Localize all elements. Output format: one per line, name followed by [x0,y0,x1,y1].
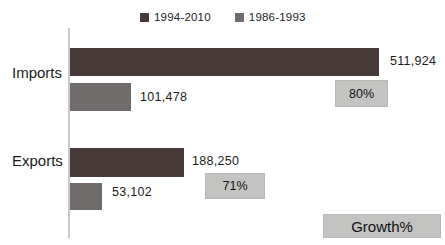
value-label-exports-1994-2010: 188,250 [192,154,239,168]
bar-imports-1986-1993 [70,83,131,111]
category-label-imports: Imports [12,64,62,81]
legend: 1994-2010 1986-1993 [140,11,306,23]
bar-exports-1994-2010 [70,148,184,177]
growth-box-exports: 71% [205,173,265,199]
growth-legend-box: Growth% [323,214,441,238]
legend-item-1994-2010: 1994-2010 [140,11,211,23]
legend-label-1986-1993: 1986-1993 [249,11,306,23]
legend-item-1986-1993: 1986-1993 [235,11,306,23]
legend-swatch-1994-2010 [140,13,149,22]
value-label-imports-1986-1993: 101,478 [140,90,187,104]
category-label-exports: Exports [12,152,63,169]
bar-chart: 1994-2010 1986-1993 Imports Exports 511,… [0,0,445,245]
bar-exports-1986-1993 [70,183,102,210]
value-label-imports-1994-2010: 511,924 [390,54,436,68]
value-label-exports-1986-1993: 53,102 [112,185,152,199]
legend-swatch-1986-1993 [235,13,244,22]
legend-label-1994-2010: 1994-2010 [154,11,211,23]
growth-box-imports: 80% [335,80,388,107]
bar-imports-1994-2010 [70,48,379,76]
